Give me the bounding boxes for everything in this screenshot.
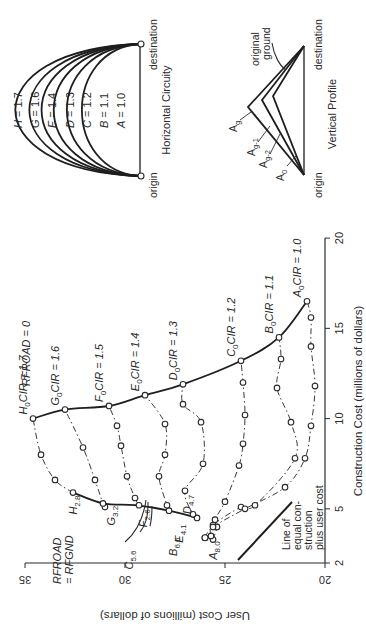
data-point-marker-icon: [198, 419, 204, 425]
y-tick-label: 35: [19, 574, 31, 586]
cir-label-e: E0CIR = 1.4: [129, 333, 144, 392]
data-point-marker-icon: [132, 495, 138, 501]
grade-angle-label: Ag: [227, 121, 242, 132]
x-tick-label: 20: [333, 232, 345, 244]
circuity-label-b: B = 1.1: [98, 93, 110, 128]
cir-label-g: G0CIR = 1.6: [49, 345, 64, 406]
leader-line: [240, 112, 251, 120]
cir-label-c: C0CIR = 1.2: [225, 298, 240, 357]
circuity-label-a: A = 1.0: [115, 93, 127, 129]
data-point-marker-icon: [274, 385, 280, 391]
data-point-marker-icon: [100, 501, 106, 507]
grade-label-d: D4.7: [181, 494, 196, 514]
horizontal-circuity-inset: origin destination Horizontal Circuity H…: [12, 19, 172, 198]
equal-cost-label: Line of equal con- struction plus user c…: [280, 485, 325, 550]
profile-origin-label: origin: [312, 172, 324, 198]
ground-label-line2: ground: [260, 27, 272, 60]
data-point-marker-icon: [166, 508, 172, 514]
destination-marker-icon: [138, 41, 144, 47]
data-point-marker-icon: [222, 499, 228, 505]
y-tick-label: 30: [119, 574, 131, 586]
data-point-marker-icon: [304, 298, 310, 304]
x-tick-label: 2: [333, 560, 345, 566]
figure-rotated: 25101520 20253035 Construction Cost (mil…: [0, 0, 366, 626]
chart-figure: 25101520 20253035 Construction Cost (mil…: [0, 0, 366, 626]
data-point-marker-icon: [308, 423, 314, 429]
data-point-marker-icon: [238, 358, 244, 364]
ground-pointer-icon: [272, 43, 286, 70]
main-chart: 25101520 20253035 Construction Cost (mil…: [17, 232, 364, 622]
data-point-marker-icon: [242, 412, 248, 418]
circuity-label-c: C = 1.2: [81, 92, 93, 128]
data-point-marker-icon: [80, 445, 86, 451]
horizontal-inset-title: Horizontal Circuity: [160, 65, 172, 155]
data-point-marker-icon: [182, 488, 188, 494]
circuity-label-g: G = 1.6: [29, 92, 41, 128]
data-point-marker-icon: [278, 356, 284, 362]
cir-label-d: D0CIR = 1.3: [167, 320, 182, 380]
origin-label: origin: [147, 172, 159, 198]
y-tick-label: 25: [219, 574, 231, 586]
x-axis-label: Construction Cost (millions of dollars): [352, 306, 364, 497]
x-tick-label: 15: [333, 322, 345, 334]
data-point-marker-icon: [240, 441, 246, 447]
grade-label-c: C5.6: [123, 550, 138, 570]
data-point-marker-icon: [30, 416, 36, 422]
data-point-marker-icon: [38, 452, 44, 458]
rfroad-rfgnd-line2: = RFGND: [63, 535, 75, 584]
data-point-marker-icon: [302, 456, 308, 462]
data-point-marker-icon: [308, 344, 314, 350]
data-point-marker-icon: [282, 484, 288, 490]
data-point-marker-icon: [52, 477, 58, 483]
grade-label-h: H2.8: [67, 495, 82, 515]
data-point-marker-icon: [142, 392, 148, 398]
data-point-marker-icon: [210, 524, 216, 530]
y-axis-label: User Cost (millions of dollars): [100, 610, 250, 622]
data-point-marker-icon: [156, 474, 162, 480]
x-tick-label: 5: [333, 506, 345, 512]
data-point-marker-icon: [124, 474, 130, 480]
data-point-marker-icon: [312, 383, 318, 389]
data-point-marker-icon: [180, 382, 186, 388]
grade-label-b: B6.6: [167, 537, 182, 556]
data-point-marker-icon: [240, 380, 246, 386]
data-point-marker-icon: [180, 401, 186, 407]
profile-destination-label: destination: [312, 19, 324, 70]
data-point-marker-icon: [136, 502, 142, 508]
data-point-marker-icon: [252, 502, 258, 508]
grade-angle-label: Ag-2: [257, 150, 272, 168]
cir-labels: H0CIR = 1.7G0CIR = 1.6F0CIR = 1.5E0CIR =…: [17, 238, 306, 415]
data-point-marker-icon: [208, 533, 214, 539]
cir-series-curve: [109, 406, 139, 505]
data-point-marker-icon: [242, 506, 248, 512]
data-point-marker-icon: [202, 535, 208, 541]
data-point-marker-icon: [92, 477, 98, 483]
leader-line: [258, 126, 270, 142]
x-axis-ticks: 25101520: [325, 232, 345, 566]
cir-series-curve: [213, 361, 245, 540]
rfroad-rfgnd-label: RFROAD = RFGND: [51, 535, 75, 584]
rfroad-rfgnd-line1: RFROAD: [51, 538, 63, 585]
data-point-marker-icon: [276, 335, 282, 341]
data-point-marker-icon: [62, 407, 68, 413]
destination-label: destination: [147, 19, 159, 70]
data-point-marker-icon: [292, 456, 298, 462]
data-point-marker-icon: [212, 517, 218, 523]
data-point-marker-icon: [106, 403, 112, 409]
grade-angle-label: Ag-1: [245, 138, 260, 156]
circuity-labels: H = 1.7G = 1.6E = 1.4D = 1.3C = 1.2B = 1…: [12, 92, 127, 129]
data-point-marker-icon: [164, 502, 170, 508]
circuity-label-d: D = 1.3: [64, 92, 76, 128]
data-point-marker-icon: [162, 452, 168, 458]
circuity-label-h: H = 1.7: [12, 92, 24, 128]
cir-label-a: A0CIR = 1.0: [291, 238, 306, 298]
grade-angle-label: A0: [274, 170, 289, 181]
vertical-inset-title: Vertical Profile: [326, 79, 338, 149]
grade-label-a: A8.0: [207, 541, 222, 561]
vertical-profile-inset: original ground origin destination Verti…: [227, 19, 338, 198]
cir-label-b: B0CIR = 1.1: [263, 275, 278, 334]
data-point-marker-icon: [162, 421, 168, 427]
origin-marker-icon: [138, 173, 144, 179]
data-point-marker-icon: [118, 443, 124, 449]
data-point-marker-icon: [200, 461, 206, 467]
